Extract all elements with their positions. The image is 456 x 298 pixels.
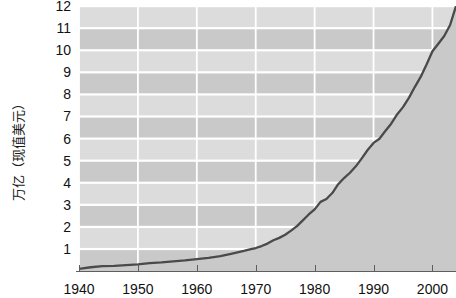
x-tick-label: 1950 bbox=[108, 282, 168, 296]
x-tick-label: 1960 bbox=[167, 282, 227, 296]
x-tick-label: 2000 bbox=[402, 282, 456, 296]
chart-container: 万亿（现值美元） 123456789101112 194019501960197… bbox=[0, 0, 456, 298]
x-tick-label: 1980 bbox=[285, 282, 345, 296]
x-tick-label: 1990 bbox=[344, 282, 404, 296]
x-axis-tick-labels: 1940195019601970198019902000 bbox=[0, 0, 456, 298]
x-tick-label: 1940 bbox=[49, 282, 109, 296]
x-tick-label: 1970 bbox=[226, 282, 286, 296]
